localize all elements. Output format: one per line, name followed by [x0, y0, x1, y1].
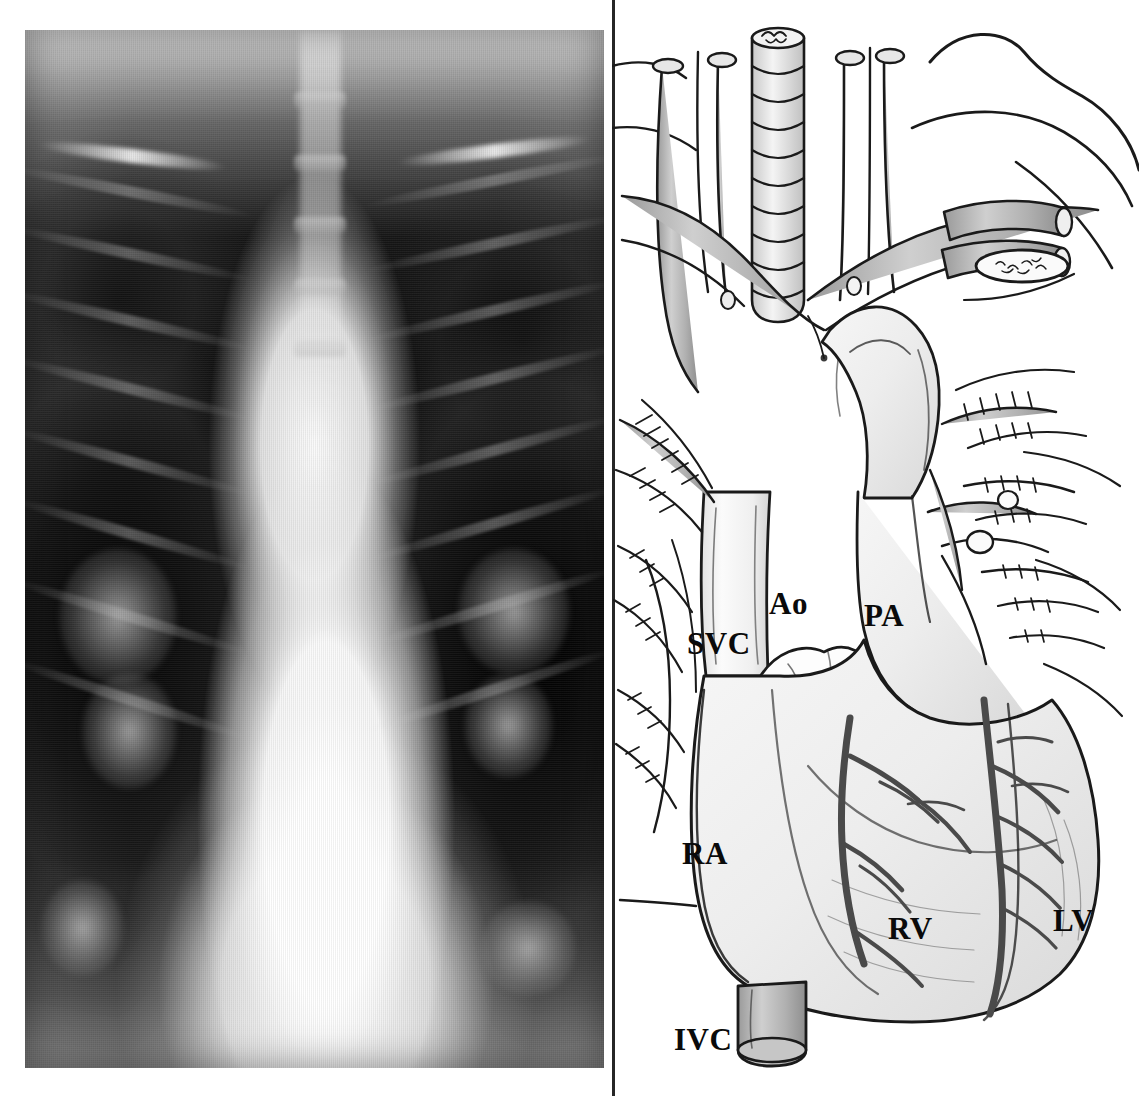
label-rv: RV	[888, 913, 933, 944]
lung-base-marking	[482, 902, 575, 995]
lung-base-marking	[42, 881, 123, 974]
cardiac-silhouette	[691, 640, 1099, 1022]
aortic-arch	[808, 307, 939, 498]
inferior-vena-cava	[738, 982, 806, 1066]
label-ao: Ao	[769, 588, 808, 619]
hilar-vascular-marking	[465, 674, 552, 778]
label-ra: RA	[682, 838, 728, 869]
hilar-vascular-marking	[459, 549, 569, 674]
heart-anatomy-panel: SVC Ao PA RA RV LV IVC	[612, 0, 1139, 1096]
medical-figure: SVC Ao PA RA RV LV IVC	[0, 0, 1139, 1096]
label-lv: LV	[1053, 905, 1094, 936]
label-ivc: IVC	[674, 1024, 732, 1055]
chest-radiograph-panel	[25, 30, 604, 1068]
hilar-vascular-marking	[60, 549, 176, 684]
label-svc: SVC	[687, 628, 751, 659]
hilar-vascular-marking	[83, 674, 176, 788]
label-pa: PA	[864, 600, 904, 631]
